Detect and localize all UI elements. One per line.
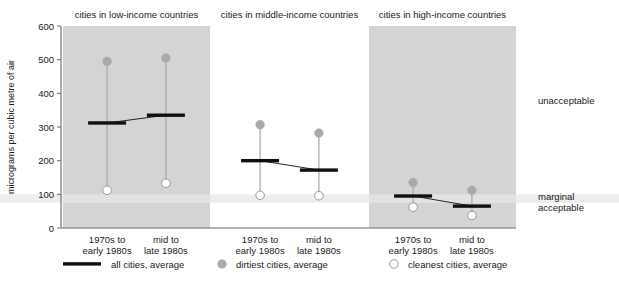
all-cities-average-marker[interactable] xyxy=(300,168,338,171)
dirtiest-cities-average-marker[interactable] xyxy=(468,186,477,195)
category-label-line2: late 1980s xyxy=(297,245,341,256)
all-cities-average-marker[interactable] xyxy=(147,114,185,117)
cleanest-cities-average-marker[interactable] xyxy=(409,203,418,212)
all-cities-average-marker[interactable] xyxy=(88,121,126,124)
legend-open-circle-swatch xyxy=(390,260,399,269)
legend-label-all-cities: all cities, average xyxy=(111,259,184,270)
dirtiest-cities-average-marker[interactable] xyxy=(103,57,112,66)
category-label-line2: early 1980s xyxy=(83,245,132,256)
cleanest-cities-average-marker[interactable] xyxy=(256,191,265,200)
y-tick-label: 0 xyxy=(49,223,54,234)
dirtiest-cities-average-marker[interactable] xyxy=(162,54,171,63)
panel-1: cities in low-income countries1970s toea… xyxy=(63,9,210,256)
y-tick-label: 200 xyxy=(38,155,54,166)
all-cities-average-marker[interactable] xyxy=(453,204,491,207)
category-label-line1: mid to xyxy=(153,234,179,245)
category-label-line1: mid to xyxy=(459,234,485,245)
dirtiest-cities-average-marker[interactable] xyxy=(409,178,418,187)
y-tick-label: 600 xyxy=(38,21,54,32)
cleanest-cities-average-marker[interactable] xyxy=(468,211,477,220)
band-label-unacceptable: unacceptable xyxy=(538,95,595,106)
all-cities-average-marker[interactable] xyxy=(394,194,432,197)
category-label-line2: late 1980s xyxy=(144,245,188,256)
panel-marginal-band xyxy=(63,194,210,202)
y-axis-title: micrograms per cubic metre of air xyxy=(6,60,16,194)
legend-line-swatch xyxy=(63,262,101,265)
legend: all cities, averagedirtiest cities, aver… xyxy=(63,259,507,270)
y-tick-label: 300 xyxy=(38,122,54,133)
category-label-line2: early 1980s xyxy=(389,245,438,256)
category-label-line2: early 1980s xyxy=(236,245,285,256)
all-cities-average-marker[interactable] xyxy=(241,159,279,162)
dirtiest-cities-average-marker[interactable] xyxy=(315,129,324,138)
category-label-line1: mid to xyxy=(306,234,332,245)
cleanest-cities-average-marker[interactable] xyxy=(162,179,171,188)
cleanest-cities-average-marker[interactable] xyxy=(103,186,112,195)
y-tick-label: 400 xyxy=(38,88,54,99)
legend-label-dirtiest-cities: dirtiest cities, average xyxy=(236,259,328,270)
legend-label-cleanest-cities: cleanest cities, average xyxy=(408,259,507,270)
category-label-line2: late 1980s xyxy=(450,245,494,256)
panel-title-1: cities in low-income countries xyxy=(75,9,199,20)
band-label-marginal: marginal xyxy=(538,191,574,202)
category-label-line1: 1970s to xyxy=(395,234,431,245)
panel-title-3: cities in high-income countries xyxy=(379,9,507,20)
legend-filled-circle-swatch xyxy=(218,260,227,269)
band-label-acceptable: acceptable xyxy=(538,202,584,213)
cleanest-cities-average-marker[interactable] xyxy=(315,191,324,200)
category-label-line1: 1970s to xyxy=(242,234,278,245)
category-label-line1: 1970s to xyxy=(89,234,125,245)
y-tick-label: 500 xyxy=(38,54,54,65)
y-tick-label: 100 xyxy=(38,189,54,200)
dirtiest-cities-average-marker[interactable] xyxy=(256,120,265,129)
chart-canvas: cities in low-income countries1970s toea… xyxy=(0,0,619,287)
air-pollution-chart: cities in low-income countries1970s toea… xyxy=(0,0,619,287)
panel-2: cities in middle-income countries1970s t… xyxy=(221,9,359,256)
panel-3: cities in high-income countries1970s toe… xyxy=(369,9,516,256)
panel-title-2: cities in middle-income countries xyxy=(221,9,359,20)
